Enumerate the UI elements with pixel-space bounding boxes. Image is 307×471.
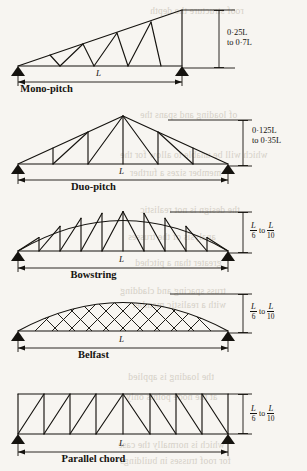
depth-note-line1: 0·125L	[252, 126, 277, 135]
fraction-numerator: L	[251, 404, 256, 413]
fraction-numerator: L	[251, 221, 256, 230]
figure-sheet: roof structure the depth of loading and …	[0, 0, 307, 471]
fraction-numerator: L	[268, 404, 273, 413]
duo-pitch-truss	[18, 116, 228, 164]
depth-note-mono-pitch: 0·25L to 0·7L	[227, 28, 252, 48]
parallel-chord-truss	[18, 394, 228, 434]
fraction-l-over-6: L 6	[250, 302, 257, 320]
depth-dimension-bowstring	[170, 212, 252, 253]
fraction-connector: to	[259, 409, 265, 418]
depth-note-bowstring: L 6 to L 10	[250, 221, 274, 239]
mono-pitch-truss	[18, 10, 182, 66]
fraction-denominator: 10	[267, 415, 274, 422]
depth-note-parallel-chord: L 6 to L 10	[250, 404, 274, 422]
figure-belfast: L 6 to L 10 L Belfast	[0, 272, 307, 358]
depth-dimension-duo-pitch	[168, 120, 252, 166]
fraction-connector: to	[259, 307, 265, 316]
fraction-l-over-10: L 10	[267, 302, 274, 320]
depth-note-line2: to 0·7L	[227, 38, 252, 47]
caption-belfast: Belfast	[0, 349, 247, 360]
fraction-denominator: 10	[267, 313, 274, 320]
depth-note-belfast: L 6 to L 10	[250, 302, 274, 320]
caption-mono-pitch: Mono-pitch	[0, 83, 200, 94]
figure-bowstring: L 6 to L 10 L Bowstring	[0, 192, 307, 278]
depth-note-duo-pitch: 0·125L to 0·35L	[252, 126, 281, 146]
caption-parallel-chord: Parallel chord	[0, 453, 247, 464]
figure-duo-pitch: 0·125L to 0·35L L Duo-pitch	[0, 100, 307, 190]
depth-dimension-belfast	[170, 294, 252, 333]
span-label-mono-pitch: L	[96, 68, 101, 78]
fraction-l-over-6: L 6	[250, 404, 257, 422]
fraction-denominator: 6	[252, 232, 256, 239]
fraction-denominator: 6	[252, 313, 256, 320]
span-label-belfast: L	[119, 334, 124, 344]
bowstring-truss	[18, 212, 228, 251]
fraction-numerator: L	[268, 221, 273, 230]
fraction-numerator: L	[251, 302, 256, 311]
figure-parallel-chord: L 6 to L 10 L Parallel chord	[0, 380, 307, 471]
span-label-bowstring: L	[119, 254, 124, 264]
span-label-parallel-chord: L	[119, 438, 124, 448]
depth-note-line1: 0·25L	[227, 28, 247, 37]
fraction-denominator: 10	[267, 232, 274, 239]
fraction-denominator: 6	[252, 415, 256, 422]
figure-mono-pitch: 0·25L to 0·7L L Mono-pitch	[0, 0, 307, 96]
depth-note-line2: to 0·35L	[252, 136, 281, 145]
fraction-l-over-10: L 10	[267, 221, 274, 239]
caption-duo-pitch: Duo-pitch	[0, 181, 247, 192]
fraction-connector: to	[259, 226, 265, 235]
span-label-duo-pitch: L	[119, 166, 124, 176]
fraction-numerator: L	[268, 302, 273, 311]
depth-dimension-parallel-chord	[228, 394, 252, 434]
fraction-l-over-6: L 6	[250, 221, 257, 239]
fraction-l-over-10: L 10	[267, 404, 274, 422]
belfast-lattice	[18, 291, 228, 331]
